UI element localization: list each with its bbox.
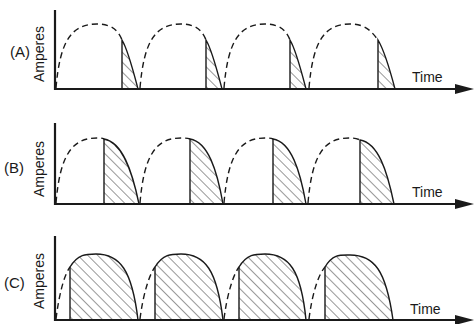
panel-c: (C) Amperes Time bbox=[4, 236, 474, 324]
panel-b: (B) Amperes Time bbox=[4, 123, 474, 209]
conduction-region bbox=[360, 140, 394, 204]
panel-label: (C) bbox=[4, 274, 25, 291]
y-axis-label: Amperes bbox=[31, 141, 47, 197]
conduction-region bbox=[239, 254, 306, 320]
x-axis-label: Time bbox=[412, 69, 443, 85]
arrow-icon bbox=[455, 199, 474, 209]
conduction-region bbox=[325, 255, 393, 320]
conduction-region bbox=[290, 40, 306, 89]
phase-control-waveform-diagram: (A) Amperes Time (B) Amperes Time (C bbox=[0, 0, 475, 324]
arrow-icon bbox=[455, 315, 474, 324]
conduction-region bbox=[155, 254, 223, 320]
conduction-region bbox=[104, 139, 139, 204]
conduction-region bbox=[206, 40, 222, 89]
x-axis-label: Time bbox=[412, 184, 443, 200]
panel-label: (A) bbox=[10, 43, 30, 60]
conduction-region bbox=[190, 139, 223, 204]
y-axis-label: Amperes bbox=[31, 26, 47, 82]
conduction-region bbox=[70, 254, 138, 320]
conduction-region bbox=[122, 40, 138, 89]
conduction-region bbox=[273, 139, 306, 204]
arrow-icon bbox=[455, 84, 474, 94]
panel-a: (A) Amperes Time bbox=[10, 10, 474, 94]
conduction-region bbox=[378, 40, 395, 89]
y-axis-label: Amperes bbox=[31, 253, 47, 309]
panel-label: (B) bbox=[4, 159, 24, 176]
x-axis-label: Time bbox=[410, 301, 441, 317]
